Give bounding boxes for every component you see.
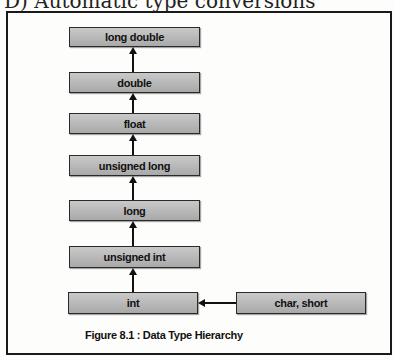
node-unsigned-long: unsigned long — [69, 155, 200, 176]
node-label: unsigned int — [104, 251, 166, 263]
node-label: int — [127, 297, 140, 309]
node-int: int — [68, 292, 198, 314]
figure-caption: Figure 8.1 : Data Type Hierarchy — [85, 329, 243, 341]
node-label: char, short — [275, 297, 328, 309]
edge-char-short-to-int — [203, 302, 236, 304]
edge-float-to-double — [132, 98, 134, 113]
edge-long-to-unsigned-long — [132, 181, 134, 200]
edge-unsigned-long-to-float — [132, 139, 134, 155]
node-long: long — [69, 200, 200, 221]
arrow-head-icon — [129, 221, 137, 228]
edge-int-to-unsigned-int — [132, 273, 134, 292]
arrow-head-icon — [129, 93, 137, 100]
node-unsigned-int: unsigned int — [69, 246, 200, 268]
node-char-short: char, short — [236, 292, 366, 314]
node-label: unsigned long — [99, 160, 170, 172]
node-label: long double — [105, 31, 164, 43]
arrow-head-icon — [198, 299, 205, 307]
node-long-double: long double — [69, 27, 200, 47]
node-label: float — [124, 118, 146, 130]
edge-double-to-long-double — [132, 52, 134, 72]
arrow-head-icon — [129, 176, 137, 183]
node-double: double — [69, 72, 200, 93]
arrow-head-icon — [129, 134, 137, 141]
arrow-head-icon — [129, 268, 137, 275]
node-float: float — [69, 113, 200, 134]
node-label: double — [117, 77, 151, 89]
node-label: long — [123, 205, 145, 217]
edge-unsigned-int-to-long — [132, 226, 134, 246]
arrow-head-icon — [129, 47, 137, 54]
